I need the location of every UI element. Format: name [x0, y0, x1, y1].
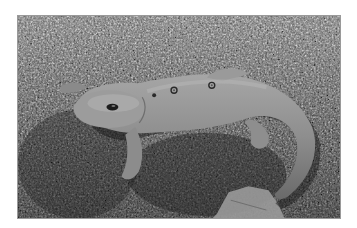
photo-frame [17, 15, 341, 219]
salamander-photo [18, 16, 340, 218]
body-spot [152, 93, 156, 97]
salamander-eye [106, 104, 118, 111]
